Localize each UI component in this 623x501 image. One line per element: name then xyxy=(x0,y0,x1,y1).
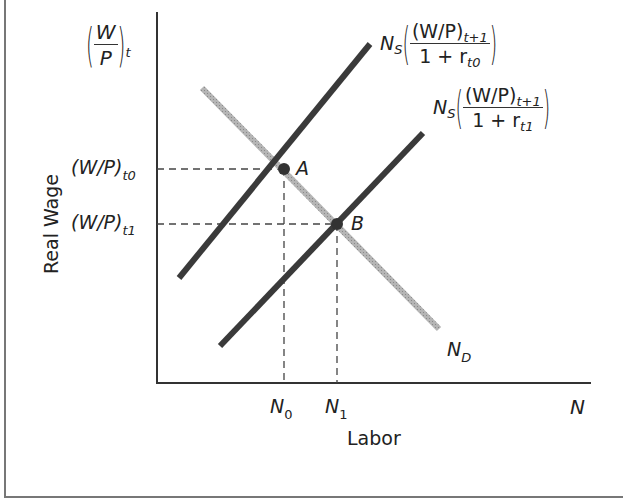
supply-t0-num: (W/P) xyxy=(412,20,463,42)
supply-t0-n: N xyxy=(380,32,394,54)
y-tick-wt0-sub: t0 xyxy=(122,168,135,183)
x-tick-n0-sub: 0 xyxy=(284,407,292,422)
price-denominator: P xyxy=(94,45,118,68)
y-tick-wt0-main: (W/P) xyxy=(71,156,122,178)
wage-numerator: W xyxy=(94,22,118,45)
point-a-label: A xyxy=(296,159,309,178)
supply-t0-den-sub: t0 xyxy=(467,55,480,70)
supply-t1-den-sub: t1 xyxy=(520,119,533,134)
x-tick-n1-sub: 1 xyxy=(339,407,347,422)
x-tick-n1: N1 xyxy=(325,397,348,416)
supply-t1-s: S xyxy=(447,106,455,121)
x-axis-end-label: N xyxy=(570,397,585,417)
x-tick-n0-main: N xyxy=(270,395,284,417)
supply-t0-den: 1 + r xyxy=(419,45,467,67)
supply-t0-num-sub: t+1 xyxy=(463,30,487,45)
demand-n: N xyxy=(447,338,461,360)
labor-supply-curve-t1 xyxy=(220,133,423,346)
x-axis-title: Labor xyxy=(347,429,401,448)
y-tick-wt1-main: (W/P) xyxy=(71,211,122,233)
y-axis-title: Real Wage xyxy=(40,174,62,274)
y-tick-wt0: (W/P)t0 xyxy=(71,158,136,177)
x-tick-n1-main: N xyxy=(325,395,339,417)
supply-t0-label: NS((W/P)t+11 + rt0) xyxy=(380,22,497,66)
supply-t1-den: 1 + r xyxy=(472,109,520,131)
point-b-marker xyxy=(331,218,343,230)
x-tick-n0: N0 xyxy=(270,397,293,416)
y-tick-wt1: (W/P)t1 xyxy=(71,213,136,232)
supply-t1-num-sub: t+1 xyxy=(516,94,540,109)
supply-t1-num: (W/P) xyxy=(465,84,516,106)
supply-t0-s: S xyxy=(394,42,402,57)
labor-supply-curve-t0 xyxy=(179,44,370,278)
demand-d: D xyxy=(461,350,471,365)
point-b-label: B xyxy=(351,214,364,233)
y-axis-top-label: (WP)t xyxy=(86,22,131,68)
y-tick-wt1-sub: t1 xyxy=(122,223,135,238)
supply-t1-n: N xyxy=(433,96,447,118)
chart-plot xyxy=(0,0,623,501)
point-a-marker xyxy=(278,163,290,175)
demand-label: ND xyxy=(447,340,471,359)
time-subscript: t xyxy=(125,45,130,60)
supply-t1-label: NS((W/P)t+11 + rt1) xyxy=(433,86,550,130)
